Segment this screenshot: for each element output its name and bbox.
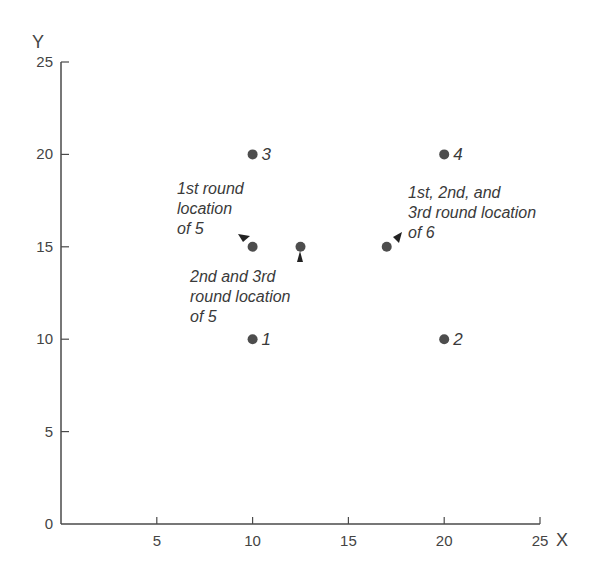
y-tick-label: 20: [36, 145, 53, 162]
point-label: 1: [262, 330, 271, 349]
point-label: 3: [262, 145, 272, 164]
y-tick-label: 15: [36, 238, 53, 255]
ticks: [61, 62, 540, 524]
y-tick-label: 25: [36, 53, 53, 70]
axes: [61, 62, 540, 524]
x-tick-label: 20: [436, 532, 453, 549]
x-tick-label: 5: [153, 532, 161, 549]
data-point: [248, 149, 258, 159]
data-point: [382, 242, 392, 252]
scatter-chart: 5101520250510152025 X Y 1234 1st round l…: [0, 0, 609, 575]
point-label: 4: [453, 145, 462, 164]
point-label: 2: [452, 330, 463, 349]
data-point: [439, 334, 449, 344]
data-point: [248, 242, 258, 252]
y-tick-label: 10: [36, 330, 53, 347]
arrowhead-all-rounds-6: [393, 232, 402, 243]
x-tick-label: 25: [532, 532, 549, 549]
annotation-second-third-round-5: 2nd and 3rd round location of 5: [189, 268, 295, 325]
y-tick-label: 0: [45, 515, 53, 532]
x-axis-label: X: [556, 530, 568, 550]
y-tick-label: 5: [45, 423, 53, 440]
x-tick-label: 15: [340, 532, 357, 549]
data-points: 1234: [248, 145, 464, 349]
x-tick-label: 10: [244, 532, 261, 549]
data-point: [296, 242, 306, 252]
y-axis-label: Y: [32, 32, 44, 52]
annotation-first-round-5: 1st round location of 5: [177, 180, 248, 237]
data-point: [248, 334, 258, 344]
arrowhead-second-third-round-5: [297, 251, 303, 262]
annotation-all-rounds-6: 1st, 2nd, and 3rd round location of 6: [408, 184, 541, 241]
data-point: [439, 149, 449, 159]
annotation-arrows: [238, 232, 402, 262]
arrowhead-first-round-5: [238, 234, 250, 242]
